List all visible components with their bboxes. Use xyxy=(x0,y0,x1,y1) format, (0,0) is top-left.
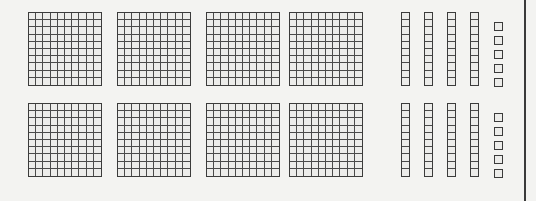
unit-cube[interactable] xyxy=(494,169,503,178)
flat-cell xyxy=(265,111,272,118)
flat-cell xyxy=(29,20,36,27)
flat-cell xyxy=(118,20,125,27)
ten-rod[interactable] xyxy=(424,103,433,177)
flat-cell xyxy=(340,78,347,85)
unit-cube[interactable] xyxy=(494,50,503,59)
flat-cell xyxy=(319,118,326,125)
flat-cell xyxy=(87,126,94,133)
flat-cell xyxy=(319,63,326,70)
rod-cell xyxy=(471,147,478,154)
hundred-flat[interactable] xyxy=(206,12,280,86)
flat-cell xyxy=(154,154,161,161)
ten-rod[interactable] xyxy=(447,12,456,86)
flat-cell xyxy=(147,111,154,118)
flat-cell xyxy=(250,140,257,147)
flat-cell xyxy=(265,169,272,176)
rod-cell xyxy=(402,126,409,133)
hundred-flat[interactable] xyxy=(28,103,102,177)
flat-cell xyxy=(154,27,161,34)
hundred-flat[interactable] xyxy=(28,12,102,86)
flat-cell xyxy=(51,78,58,85)
hundred-flat[interactable] xyxy=(117,103,191,177)
flat-cell xyxy=(236,118,243,125)
flat-cell xyxy=(176,104,183,111)
flat-cell xyxy=(79,133,86,140)
flat-cell xyxy=(207,140,214,147)
flat-cell xyxy=(272,126,279,133)
flat-cell xyxy=(348,147,355,154)
rod-cell xyxy=(448,78,455,85)
flat-cell xyxy=(265,63,272,70)
flat-cell xyxy=(236,111,243,118)
hundred-flat[interactable] xyxy=(206,103,280,177)
ten-rod[interactable] xyxy=(401,12,410,86)
ten-rod[interactable] xyxy=(470,103,479,177)
flat-cell xyxy=(51,111,58,118)
flat-cell xyxy=(147,169,154,176)
flat-cell xyxy=(229,147,236,154)
flat-cell xyxy=(290,147,297,154)
flat-cell xyxy=(312,49,319,56)
unit-cube[interactable] xyxy=(494,141,503,150)
flat-cell xyxy=(176,71,183,78)
flat-cell xyxy=(65,71,72,78)
flat-cell xyxy=(348,63,355,70)
flat-cell xyxy=(140,71,147,78)
rod-cell xyxy=(402,13,409,20)
flat-cell xyxy=(79,118,86,125)
flat-cell xyxy=(243,111,250,118)
rod-cell xyxy=(425,133,432,140)
flat-cell xyxy=(132,126,139,133)
flat-cell xyxy=(176,56,183,63)
hundred-flat[interactable] xyxy=(289,103,363,177)
ten-rod[interactable] xyxy=(424,12,433,86)
rod-cell xyxy=(448,154,455,161)
unit-cube[interactable] xyxy=(494,113,503,122)
flat-cell xyxy=(272,63,279,70)
flat-cell xyxy=(348,13,355,20)
hundred-flat[interactable] xyxy=(289,12,363,86)
flat-cell xyxy=(125,133,132,140)
flat-cell xyxy=(161,140,168,147)
ten-rod[interactable] xyxy=(401,103,410,177)
flat-cell xyxy=(355,133,362,140)
flat-cell xyxy=(58,140,65,147)
unit-cube[interactable] xyxy=(494,127,503,136)
flat-cell xyxy=(348,71,355,78)
flat-cell xyxy=(36,56,43,63)
flat-cell xyxy=(243,56,250,63)
flat-cell xyxy=(272,140,279,147)
flat-cell xyxy=(319,104,326,111)
ten-rod[interactable] xyxy=(470,12,479,86)
flat-cell xyxy=(43,133,50,140)
flat-cell xyxy=(140,169,147,176)
flat-cell xyxy=(207,27,214,34)
flat-cell xyxy=(348,162,355,169)
unit-cube[interactable] xyxy=(494,78,503,87)
flat-cell xyxy=(43,169,50,176)
flat-cell xyxy=(51,140,58,147)
flat-cell xyxy=(272,147,279,154)
rod-cell xyxy=(402,111,409,118)
flat-cell xyxy=(29,154,36,161)
flat-cell xyxy=(183,63,190,70)
flat-cell xyxy=(312,71,319,78)
flat-cell xyxy=(51,162,58,169)
flat-cell xyxy=(118,111,125,118)
unit-cube[interactable] xyxy=(494,64,503,73)
unit-cube[interactable] xyxy=(494,36,503,45)
flat-cell xyxy=(207,78,214,85)
flat-cell xyxy=(304,140,311,147)
hundred-flat[interactable] xyxy=(117,12,191,86)
ten-rod[interactable] xyxy=(447,103,456,177)
flat-cell xyxy=(176,49,183,56)
flat-cell xyxy=(297,27,304,34)
unit-cube[interactable] xyxy=(494,155,503,164)
flat-cell xyxy=(118,56,125,63)
unit-cube[interactable] xyxy=(494,22,503,31)
flat-cell xyxy=(340,63,347,70)
flat-cell xyxy=(319,35,326,42)
right-vertical-rule xyxy=(524,0,526,201)
flat-cell xyxy=(94,42,101,49)
flat-cell xyxy=(79,111,86,118)
